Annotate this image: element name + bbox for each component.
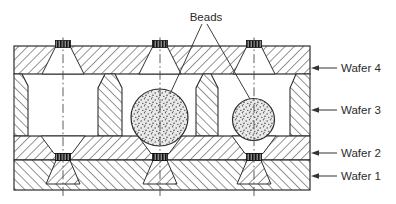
leader-arrowhead bbox=[311, 107, 319, 113]
leader-arrowhead bbox=[311, 150, 319, 156]
wafer-stack-figure: Beads Wafer 4 Wafer 3 Wafer 2 Wafer 1 bbox=[0, 0, 396, 204]
wafer-4-label: Wafer 4 bbox=[341, 62, 381, 74]
wafer-stack-diagram: Beads Wafer 4 Wafer 3 Wafer 2 Wafer 1 bbox=[0, 0, 396, 204]
wafer-1-annotation: Wafer 1 bbox=[311, 170, 381, 182]
wafer-1-layer bbox=[14, 160, 310, 190]
wafer-1-label: Wafer 1 bbox=[341, 170, 381, 182]
wafer-3-left-wall bbox=[14, 74, 28, 136]
wafer-4-layer bbox=[14, 46, 310, 74]
wafer-3-pillar bbox=[98, 74, 122, 136]
wafer-2-label: Wafer 2 bbox=[341, 147, 381, 159]
wafer-3-label: Wafer 3 bbox=[341, 104, 381, 116]
wafer-3-pillar bbox=[196, 74, 218, 136]
wafer-2-annotation: Wafer 2 bbox=[311, 147, 381, 159]
wafer-3-annotation: Wafer 3 bbox=[311, 104, 381, 116]
wafer-annotations: Wafer 4 Wafer 3 Wafer 2 Wafer 1 bbox=[311, 62, 381, 182]
leader-arrowhead bbox=[311, 65, 319, 71]
leader-arrowhead bbox=[311, 173, 319, 179]
bead-large bbox=[131, 89, 188, 146]
bead-small bbox=[233, 99, 275, 141]
beads-label: Beads bbox=[190, 11, 223, 23]
wafer-3-right-wall bbox=[290, 74, 310, 136]
wafer-4-annotation: Wafer 4 bbox=[311, 62, 381, 74]
